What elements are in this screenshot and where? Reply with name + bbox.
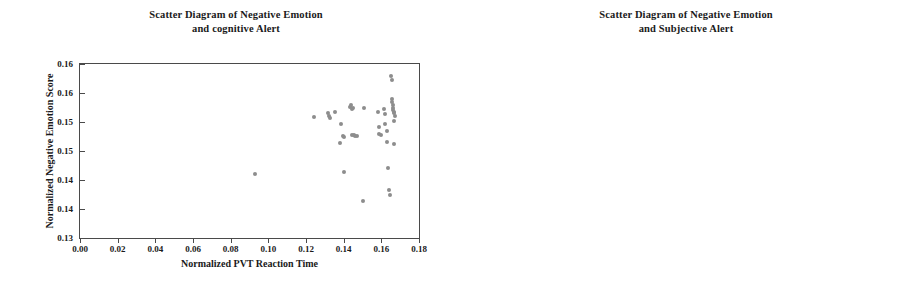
scatter-points-left (80, 64, 419, 238)
x-tick-label: 0.10 (260, 244, 276, 254)
data-point (392, 142, 396, 146)
x-tick-mark (419, 238, 420, 243)
data-point (342, 135, 346, 139)
x-tick-mark (381, 238, 382, 243)
data-point (379, 133, 383, 137)
x-tick-mark (193, 238, 194, 243)
y-tick-label: 0.16 (57, 88, 73, 98)
y-tick-mark (80, 209, 85, 210)
x-tick-mark (80, 238, 81, 243)
data-point (338, 141, 342, 145)
y-tick-label: 0.15 (57, 117, 73, 127)
data-point (312, 115, 316, 119)
chart-title-right-line2: and Subjective Alert (490, 22, 882, 36)
data-point (342, 170, 346, 174)
x-tick-label: 0.08 (223, 244, 239, 254)
x-tick-label: 0.12 (298, 244, 314, 254)
y-tick-label: 0.16 (57, 59, 73, 69)
x-tick-mark (344, 238, 345, 243)
y-tick-mark (80, 122, 85, 123)
chart-title-right-line1: Scatter Diagram of Negative Emotion (490, 8, 882, 22)
x-tick-mark (118, 238, 119, 243)
y-tick-mark (80, 151, 85, 152)
data-point (333, 110, 337, 114)
plot-area-left: 0.160.160.150.150.140.140.13 0.000.020.0… (79, 63, 420, 239)
y-tick-label: 0.14 (57, 175, 73, 185)
x-tick-label: 0.14 (336, 244, 352, 254)
y-tick-mark (80, 93, 85, 94)
data-point (362, 106, 366, 110)
scatter-diagram-figure: Scatter Diagram of Negative Emotion and … (0, 0, 900, 291)
x-tick-label: 0.02 (110, 244, 126, 254)
data-point (383, 122, 387, 126)
data-point (351, 106, 355, 110)
y-tick-label: 0.14 (57, 204, 73, 214)
data-point (385, 129, 389, 133)
data-point (385, 140, 389, 144)
chart-title-left: Scatter Diagram of Negative Emotion and … (40, 8, 432, 36)
chart-title-left-line1: Scatter Diagram of Negative Emotion (40, 8, 432, 22)
chart-panel-cognitive-alert: Scatter Diagram of Negative Emotion and … (0, 0, 450, 291)
data-point (328, 116, 332, 120)
data-point (339, 122, 343, 126)
data-point (253, 172, 257, 176)
x-axis-title-left: Normalized PVT Reaction Time (80, 258, 419, 269)
data-point (393, 114, 397, 118)
data-point (386, 166, 390, 170)
chart-panel-subjective-alert: Scatter Diagram of Negative Emotion and … (450, 0, 900, 291)
y-tick-label: 0.13 (57, 233, 73, 243)
x-tick-mark (268, 238, 269, 243)
x-tick-mark (306, 238, 307, 243)
data-point (392, 119, 396, 123)
data-point (377, 125, 381, 129)
chart-title-left-line2: and cognitive Alert (40, 22, 432, 36)
data-point (376, 110, 380, 114)
data-point (355, 134, 359, 138)
data-point (383, 112, 387, 116)
data-point (361, 199, 365, 203)
data-point (382, 107, 386, 111)
y-tick-label: 0.15 (57, 146, 73, 156)
chart-title-right: Scatter Diagram of Negative Emotion and … (490, 8, 882, 36)
x-tick-label: 0.04 (147, 244, 163, 254)
data-point (387, 188, 391, 192)
x-tick-label: 0.16 (373, 244, 389, 254)
y-axis-title-left: Normalized Negative Emotion Score (44, 73, 55, 228)
x-tick-label: 0.18 (411, 244, 427, 254)
data-point (388, 193, 392, 197)
y-tick-mark (80, 180, 85, 181)
y-tick-mark (80, 64, 85, 65)
x-tick-mark (231, 238, 232, 243)
x-tick-mark (155, 238, 156, 243)
x-tick-label: 0.00 (72, 244, 88, 254)
data-point (390, 78, 394, 82)
data-point (389, 74, 393, 78)
x-tick-label: 0.06 (185, 244, 201, 254)
